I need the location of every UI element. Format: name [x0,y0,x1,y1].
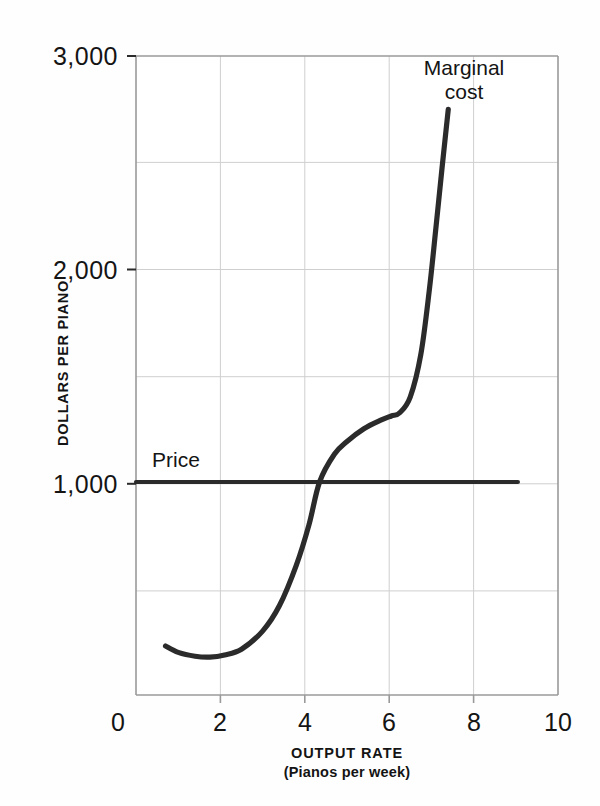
xtick-label-10: 10 [532,708,584,737]
annotation-marginal-cost: Marginal cost [404,56,524,103]
xtick-label-0: 0 [96,708,140,737]
chart-figure: 3,000 2,000 1,000 0 2 4 6 8 10 DOLLARS P… [0,0,600,806]
x-axis-title-main: OUTPUT RATE [136,745,558,761]
ytick-label-3000: 3,000 [28,42,118,71]
x-axis-title: OUTPUT RATE (Pianos per week) [136,745,558,780]
x-axis-title-sub: (Pianos per week) [136,764,558,780]
xtick-label-4: 4 [283,708,327,737]
xtick-label-2: 2 [198,708,242,737]
ytick-label-2000: 2,000 [28,256,118,285]
plot-background [136,56,558,695]
xtick-label-6: 6 [367,708,411,737]
ytick-label-1000: 1,000 [28,470,118,499]
annotation-marginal-cost-line2: cost [404,80,524,104]
x-tick-marks [220,695,473,703]
y-axis-title: DOLLARS PER PIANO [55,248,71,478]
xtick-label-8: 8 [452,708,496,737]
annotation-price: Price [152,448,200,472]
marginal-cost-chart [0,0,600,806]
y-tick-marks [127,56,136,484]
annotation-marginal-cost-line1: Marginal [424,56,505,79]
